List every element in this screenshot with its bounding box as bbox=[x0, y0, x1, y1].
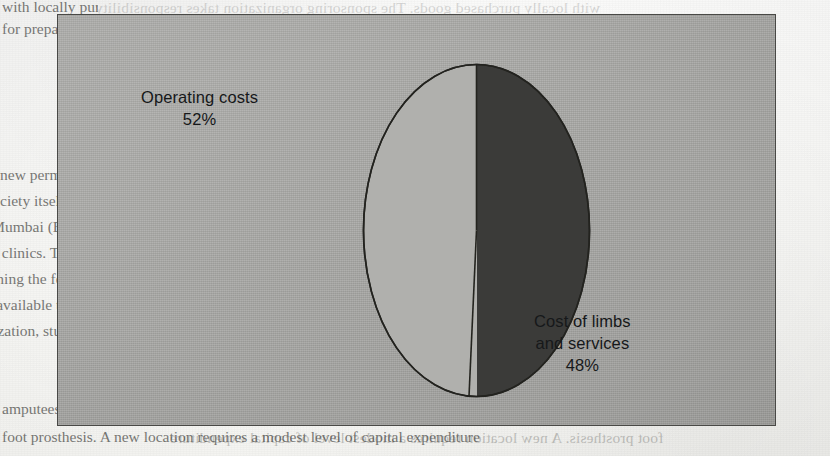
pie-label-operating-costs-value: 52% bbox=[141, 109, 258, 131]
pie-label-operating-costs: Operating costs 52% bbox=[141, 87, 258, 131]
scanned-page: with locally purchased goods. The sponso… bbox=[0, 0, 830, 456]
pie-label-cost-of-limbs: Cost of limbs and services 48% bbox=[534, 311, 631, 376]
pie-label-cost-of-limbs-value: 48% bbox=[534, 355, 631, 377]
pie-label-operating-costs-name: Operating costs bbox=[141, 87, 258, 109]
pie-label-cost-of-limbs-name-1: Cost of limbs bbox=[534, 311, 631, 333]
pie-label-cost-of-limbs-name-2: and services bbox=[534, 333, 631, 355]
pie-chart-panel: Operating costs 52% Cost of limbs and se… bbox=[57, 14, 776, 426]
